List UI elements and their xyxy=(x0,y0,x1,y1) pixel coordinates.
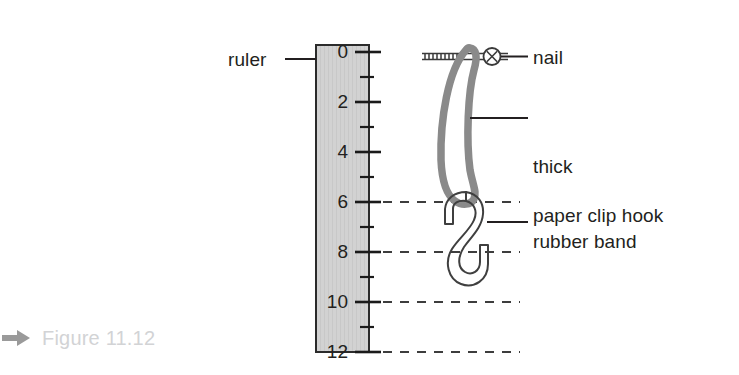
ruler-tick-label-10: 10 xyxy=(312,291,348,313)
thick-rubber-band xyxy=(441,48,528,204)
label-ruler: ruler xyxy=(228,47,267,72)
ruler-tick-label-6: 6 xyxy=(312,191,348,213)
nail-thread-icon xyxy=(425,54,457,60)
figure-caption-label: Figure 11.12 xyxy=(42,327,155,350)
ruler-tick-label-12: 12 xyxy=(312,341,348,363)
circled-x-icon xyxy=(484,48,501,65)
label-thick-rubber-band-line2: rubber band xyxy=(533,229,637,254)
ruler-tick-label-4: 4 xyxy=(312,141,348,163)
rubber-band-loop xyxy=(441,48,476,204)
label-nail: nail xyxy=(533,45,563,70)
ruler-tick-label-0: 0 xyxy=(312,41,348,63)
figure-diagram: 0 2 4 6 8 10 12 ruler nail thick rubber … xyxy=(0,0,739,375)
ruler-tick-label-2: 2 xyxy=(312,91,348,113)
label-paper-clip-hook: paper clip hook xyxy=(533,203,663,228)
label-thick-rubber-band-line1: thick xyxy=(533,154,637,179)
figure-caption: Figure 11.12 xyxy=(0,324,155,352)
ruler-tick-label-8: 8 xyxy=(312,241,348,263)
arrow-right-icon xyxy=(2,328,32,348)
